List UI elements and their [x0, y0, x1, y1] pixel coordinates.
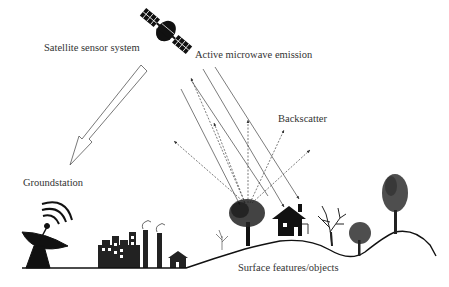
ground-line [22, 231, 436, 268]
satellite-label: Satellite sensor system [44, 43, 140, 54]
backscatter-label: Backscatter [278, 114, 327, 125]
downlink-arrow [70, 65, 147, 165]
tree-icon [216, 230, 228, 250]
emission-rays [181, 67, 299, 207]
satellite-icon [136, 3, 196, 58]
surface-label: Surface features/objects [238, 263, 339, 274]
tree-icon [229, 199, 265, 246]
tree-icon [318, 206, 346, 246]
house-icon [272, 204, 308, 236]
factory-icon [98, 221, 165, 269]
house-icon [168, 251, 188, 268]
groundstation-label: Groundstation [23, 178, 83, 189]
tree-icon [349, 222, 371, 256]
emission-label: Active microwave emission [195, 50, 312, 61]
tree-icon [382, 174, 408, 234]
satellite-dish-icon [22, 202, 72, 268]
